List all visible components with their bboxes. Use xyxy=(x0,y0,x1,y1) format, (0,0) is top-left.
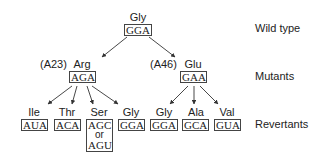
revertant-codon-gua: GUA xyxy=(214,119,241,131)
mutant-position-a46: (A46) xyxy=(150,58,177,70)
revertant-amino-acid-gly-1: Gly xyxy=(123,106,140,118)
revertant-codon-gga-1: GGA xyxy=(118,119,145,131)
wild-type-codon-text: GGA xyxy=(126,25,150,36)
arrow-arg-to-gly xyxy=(92,86,118,104)
row-label-wild-type: Wild type xyxy=(255,22,300,34)
mutant-codon-aga: AGA xyxy=(69,71,96,83)
arrow-arg-to-thr xyxy=(72,86,77,104)
revertant-amino-acid-ile: Ile xyxy=(28,106,40,118)
arrow-glu-to-gly xyxy=(170,86,188,104)
revertant-amino-acid-gly-2: Gly xyxy=(156,106,173,118)
revertant-codon-gua-text: GUA xyxy=(216,120,239,131)
revertant-codon-agu-text: AGU xyxy=(88,140,111,150)
revertant-amino-acid-ala: Ala xyxy=(188,106,204,118)
row-label-mutants: Mutants xyxy=(255,70,294,82)
revertant-codon-aua: AUA xyxy=(21,119,48,131)
revertant-codon-gca-text: GCA xyxy=(184,120,207,131)
revertant-amino-acid-thr: Thr xyxy=(59,106,76,118)
mutant-amino-acid-glu: Glu xyxy=(184,58,201,70)
revertant-codon-gga-2-text: GGA xyxy=(152,120,176,131)
row-label-revertants: Revertants xyxy=(255,118,308,130)
revertant-codon-ser-box: AGC or AGU xyxy=(86,119,113,152)
mutant-amino-acid-arg: Arg xyxy=(73,58,90,70)
revertant-amino-acid-val: Val xyxy=(219,106,234,118)
arrow-gly-to-arg xyxy=(102,37,127,57)
wild-type-codon: GGA xyxy=(124,24,152,36)
arrow-glu-to-val xyxy=(200,86,218,104)
mutant-codon-aga-text: AGA xyxy=(71,72,94,83)
mutant-position-a23: (A23) xyxy=(40,58,67,70)
revertant-codon-aca: ACA xyxy=(54,119,81,131)
mutant-codon-gaa-text: GAA xyxy=(182,72,205,83)
arrow-arg-to-ser xyxy=(87,86,93,104)
arrow-arg-to-ile xyxy=(48,86,72,104)
revertant-codon-aca-text: ACA xyxy=(56,120,79,131)
revertant-codon-gga-1-text: GGA xyxy=(120,120,143,131)
wild-type-amino-acid: Gly xyxy=(130,11,147,23)
revertant-codon-gga-2: GGA xyxy=(150,119,178,131)
mutant-codon-gaa: GAA xyxy=(180,71,207,83)
revertant-amino-acid-ser: Ser xyxy=(90,106,107,118)
revertant-codon-gca: GCA xyxy=(182,119,209,131)
revertant-codon-aua-text: AUA xyxy=(23,120,46,131)
arrow-gly-to-glu xyxy=(149,37,175,57)
